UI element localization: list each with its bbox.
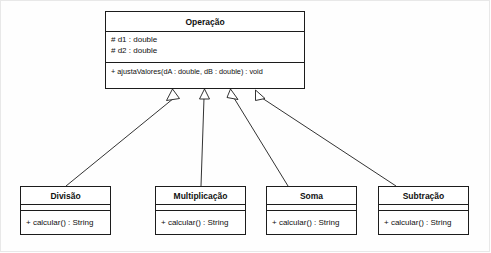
class-box-subtracao[interactable]: Subtração + calcular() : String	[378, 186, 469, 235]
class-operations-operacao: + ajustaValores(dA : double, dB : double…	[106, 63, 304, 87]
class-name-subtracao: Subtração	[379, 187, 468, 205]
operation-item: + calcular() : String	[161, 217, 228, 228]
operation-item: + ajustaValores(dA : double, dB : double…	[111, 66, 299, 77]
class-operations-multiplicacao: + calcular() : String	[156, 211, 245, 234]
class-box-soma[interactable]: Soma + calcular() : String	[266, 186, 357, 235]
operation-item: + calcular() : String	[384, 217, 451, 228]
generalization-edge-divisao	[66, 89, 180, 186]
class-name-divisao: Divisão	[21, 187, 110, 205]
class-operations-divisao: + calcular() : String	[21, 211, 110, 234]
class-name-operacao: Operação	[106, 12, 304, 32]
class-name-soma: Soma	[267, 187, 356, 205]
attribute-item: # d1 : double	[111, 34, 299, 45]
generalization-edge-subtracao	[256, 90, 397, 186]
attribute-item: # d2 : double	[111, 45, 299, 56]
uml-class-diagram: Operação # d1 : double # d2 : double + a…	[0, 0, 491, 253]
operation-item: + calcular() : String	[26, 217, 93, 228]
class-attributes-operacao: # d1 : double # d2 : double	[106, 32, 304, 63]
class-operations-soma: + calcular() : String	[267, 211, 356, 234]
class-box-operacao[interactable]: Operação # d1 : double # d2 : double + a…	[105, 11, 305, 89]
class-box-multiplicacao[interactable]: Multiplicação + calcular() : String	[155, 186, 246, 235]
class-operations-subtracao: + calcular() : String	[379, 211, 468, 234]
class-box-divisao[interactable]: Divisão + calcular() : String	[20, 186, 111, 235]
class-name-multiplicacao: Multiplicação	[156, 187, 245, 205]
generalization-edge-multiplicacao	[200, 89, 210, 186]
generalization-edge-soma	[227, 89, 288, 186]
operation-item: + calcular() : String	[272, 217, 339, 228]
